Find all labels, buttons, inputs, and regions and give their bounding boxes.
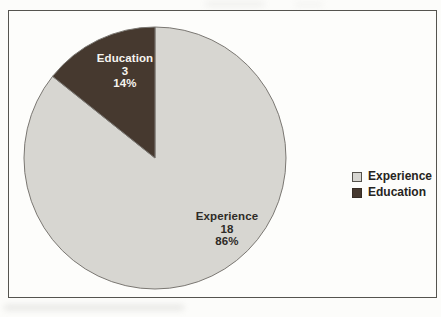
legend-item-experience: Experience [352,170,432,183]
slice-name: Experience [196,210,258,223]
pie-svg [9,11,436,297]
legend-swatch-education [352,188,362,198]
legend-swatch-experience [352,172,362,182]
scan-artifact [295,3,323,6]
legend-label: Education [368,186,426,199]
legend-item-education: Education [352,186,432,199]
legend: Experience Education [352,170,432,199]
slice-label-education: Education 3 14% [97,52,154,90]
slice-percent: 86% [196,235,258,248]
scan-artifact [4,305,184,310]
slice-label-experience: Experience 18 86% [196,210,258,248]
plot-frame: Education 3 14% Experience 18 86% Experi… [8,10,437,298]
slice-value: 3 [97,65,154,78]
slice-value: 18 [196,223,258,236]
legend-label: Experience [368,170,432,183]
scan-artifact [205,2,265,6]
slice-percent: 14% [97,77,154,90]
slice-name: Education [97,52,154,65]
chart-canvas: Education 3 14% Experience 18 86% Experi… [0,0,441,317]
